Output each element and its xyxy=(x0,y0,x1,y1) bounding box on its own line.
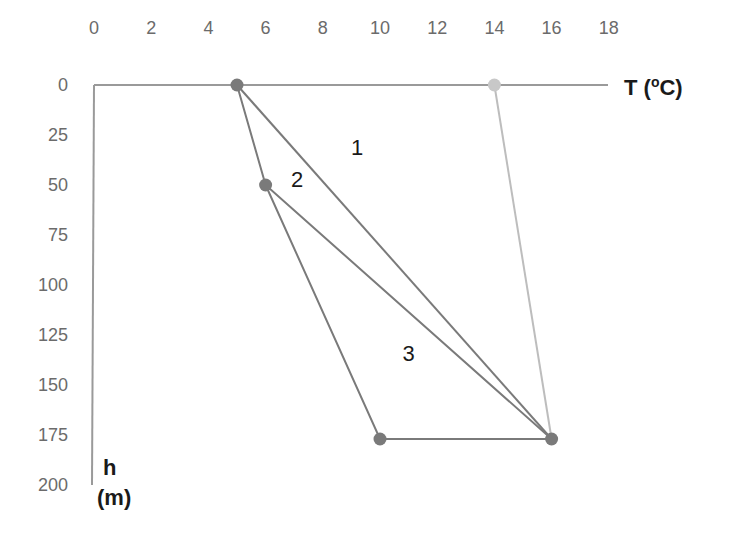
y-axis-ticks: 0255075100125150175200 xyxy=(38,75,68,495)
x-tick-label: 2 xyxy=(146,18,156,38)
x-tick-label: 18 xyxy=(599,18,619,38)
x-tick-label: 16 xyxy=(542,18,562,38)
y-tick-label: 200 xyxy=(38,475,68,495)
y-tick-label: 75 xyxy=(48,225,68,245)
region-label-1: 1 xyxy=(351,135,363,160)
series-lines xyxy=(237,85,552,439)
y-axis-title-line2: (m) xyxy=(97,485,131,510)
x-tick-label: 6 xyxy=(261,18,271,38)
y-tick-label: 175 xyxy=(38,425,68,445)
region-label-3: 3 xyxy=(402,341,414,366)
x-tick-label: 4 xyxy=(203,18,213,38)
y-tick-label: 0 xyxy=(58,75,68,95)
y-tick-label: 125 xyxy=(38,325,68,345)
region-label-2: 2 xyxy=(291,167,303,192)
data-point-marker xyxy=(488,79,501,92)
x-tick-label: 8 xyxy=(318,18,328,38)
x-tick-label: 14 xyxy=(484,18,504,38)
x-axis-title: T (oC) xyxy=(624,74,683,100)
region-labels: 123 xyxy=(291,135,415,366)
light-profile-line xyxy=(494,85,551,439)
y-axis-line xyxy=(92,85,94,485)
x-tick-label: 12 xyxy=(427,18,447,38)
y-tick-label: 25 xyxy=(48,125,68,145)
x-tick-label: 10 xyxy=(370,18,390,38)
profile-1-line xyxy=(237,85,552,439)
y-tick-label: 100 xyxy=(38,275,68,295)
data-point-marker xyxy=(259,179,272,192)
y-tick-label: 50 xyxy=(48,175,68,195)
temperature-depth-chart: 024681012141618 0255075100125150175200 1… xyxy=(0,0,731,548)
data-point-marker xyxy=(231,79,244,92)
x-tick-label: 0 xyxy=(89,18,99,38)
data-point-marker xyxy=(545,433,558,446)
data-point-marker xyxy=(374,433,387,446)
x-axis-ticks: 024681012141618 xyxy=(89,18,619,38)
y-axis-title-line1: h xyxy=(103,455,116,480)
y-tick-label: 150 xyxy=(38,375,68,395)
